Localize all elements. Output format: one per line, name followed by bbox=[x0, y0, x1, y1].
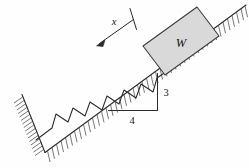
coil-spring bbox=[36, 69, 170, 140]
incline-line bbox=[45, 5, 246, 153]
inclined-surface-group bbox=[45, 5, 248, 162]
figure-canvas: W x 3 4 bbox=[0, 0, 249, 168]
displacement-arrow-group: x bbox=[97, 9, 137, 47]
block-w-label: W bbox=[176, 36, 188, 50]
wall-line bbox=[22, 95, 45, 153]
displacement-label-x: x bbox=[111, 16, 117, 27]
inclined-plane-diagram: W x 3 4 bbox=[0, 0, 249, 168]
wall-hatching bbox=[14, 97, 44, 156]
slope-rise-label: 3 bbox=[163, 87, 168, 98]
datum-tick-line bbox=[130, 9, 137, 30]
slope-run-label: 4 bbox=[129, 115, 135, 126]
fixed-support-wall-group bbox=[14, 95, 45, 156]
block-w-group: W bbox=[143, 7, 219, 75]
spring-coils bbox=[36, 69, 170, 140]
displacement-arrow-shaft bbox=[100, 20, 134, 44]
displacement-arrow-head bbox=[97, 40, 106, 47]
incline-hatching bbox=[48, 6, 248, 162]
